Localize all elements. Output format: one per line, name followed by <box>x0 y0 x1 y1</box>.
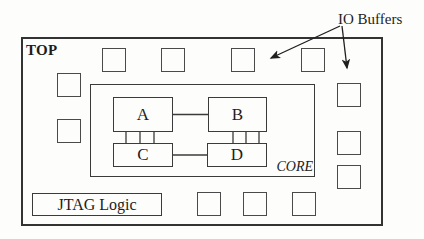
core-name-label: CORE <box>269 159 313 175</box>
jtag-logic-label: JTAG Logic <box>57 196 136 214</box>
io-buffer-square-bottom-2 <box>243 192 267 216</box>
chip-architecture-diagram: IO Buffers TOP CORE A B C D JTAG Logic <box>0 0 424 239</box>
core-block-a-label: A <box>137 105 149 125</box>
io-buffer-square-top-1 <box>102 48 126 72</box>
jtag-logic-box: JTAG Logic <box>32 193 162 216</box>
io-buffer-square-bottom-3 <box>292 192 316 216</box>
io-buffers-annotation-label: IO Buffers <box>338 11 402 28</box>
io-buffer-square-right-1 <box>337 83 361 107</box>
chip-name-label: TOP <box>26 42 57 59</box>
core-block-d: D <box>207 143 267 167</box>
core-block-d-label: D <box>231 145 243 165</box>
io-buffer-square-bottom-1 <box>197 192 221 216</box>
io-buffer-square-top-4 <box>301 48 325 72</box>
core-block-a: A <box>113 97 173 132</box>
core-block-c: C <box>113 143 173 167</box>
core-block-c-label: C <box>137 145 148 165</box>
core-block-b-label: B <box>232 105 243 125</box>
io-buffer-square-top-3 <box>231 48 255 72</box>
io-buffer-square-right-2 <box>337 131 361 155</box>
io-buffer-square-left-2 <box>57 119 81 143</box>
io-buffer-square-right-3 <box>337 165 361 189</box>
io-buffer-square-top-2 <box>161 48 185 72</box>
io-buffer-square-left-1 <box>57 73 81 97</box>
core-block-b: B <box>208 97 267 132</box>
